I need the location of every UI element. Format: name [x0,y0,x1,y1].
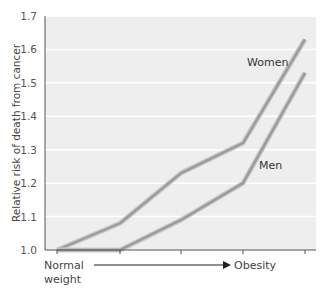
y-tick-label: 1.5 [20,77,37,89]
y-tick-labels: 1.01.11.21.31.41.51.61.7 [20,10,37,256]
y-tick-label: 1.2 [20,177,37,189]
y-tick-label: 1.7 [20,10,37,22]
line-chart: 1.01.11.21.31.41.51.61.7 Relative risk o… [0,0,323,293]
y-tick-label: 1.1 [20,211,37,223]
y-tick-label: 1.0 [20,244,37,256]
arrow-head-icon [223,261,231,269]
x-end-label: Obesity [234,259,277,272]
y-tick-label: 1.4 [20,110,37,122]
plot-area [45,16,316,250]
x-start-label-line2: weight [44,273,82,286]
y-tick-label: 1.3 [20,144,37,156]
y-tick-label: 1.6 [20,43,37,55]
series-label-men: Men [259,159,282,172]
series-label-women: Women [247,56,288,69]
y-axis-title: Relative risk of death from cancer [10,43,22,222]
x-start-label-line1: Normal [44,259,84,272]
